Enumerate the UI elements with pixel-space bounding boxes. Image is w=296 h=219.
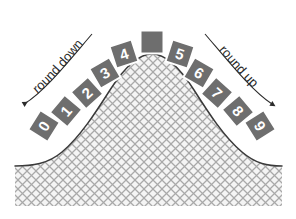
digit-tile-blank — [141, 31, 164, 54]
rounding-bell-curve-diagram: round down round up 0123456789 — [0, 0, 296, 219]
tile-background — [141, 31, 164, 54]
diagram-canvas: round down round up 0123456789 — [0, 0, 296, 219]
